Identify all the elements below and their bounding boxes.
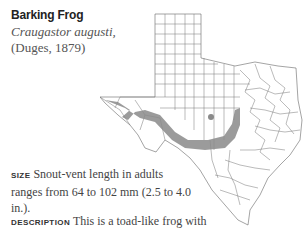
description-section: DESCRIPTION This is a toad-like frog wit… <box>11 213 261 231</box>
description-label: DESCRIPTION <box>11 218 70 227</box>
authority: (Duges, 1879) <box>11 40 85 56</box>
size-label: SIZE <box>11 171 30 180</box>
size-text: Snout-vent length in adults ranges from … <box>11 167 191 215</box>
description-text: This is a toad-like frog with <box>73 214 207 228</box>
isolated-record-dot <box>208 114 214 120</box>
size-section: SIZE Snout-vent length in adults ranges … <box>11 166 196 216</box>
range-area <box>105 100 240 150</box>
common-name: Barking Frog <box>11 8 83 22</box>
